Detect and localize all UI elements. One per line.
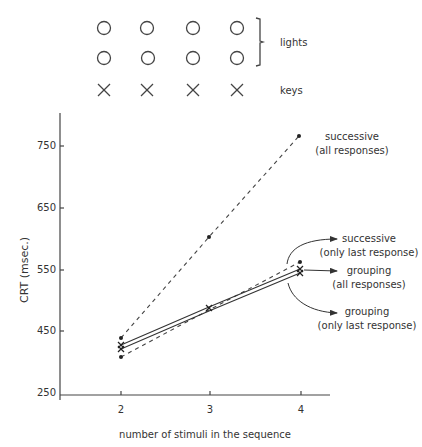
light-circle-icon bbox=[231, 22, 244, 35]
y-axis-title: CRT (msec.) bbox=[18, 237, 31, 303]
label-successive-last: successive (only last response) bbox=[316, 232, 422, 260]
key-cross-icon bbox=[231, 84, 243, 96]
key-cross-icon bbox=[187, 84, 199, 96]
lights-label: lights bbox=[280, 37, 307, 48]
y-tick-label: 550 bbox=[37, 264, 56, 275]
light-circle-icon bbox=[187, 22, 200, 35]
y-tick-label: 250 bbox=[37, 387, 56, 398]
figure: lights keys 750 650 550 450 250 2 3 4 nu… bbox=[0, 0, 422, 447]
light-circle-icon bbox=[98, 52, 111, 65]
light-circle-icon bbox=[231, 52, 244, 65]
light-circle-icon bbox=[142, 52, 155, 65]
key-cross-icon bbox=[98, 84, 110, 96]
label-line: (only last response) bbox=[312, 319, 422, 333]
x-tick-label: 3 bbox=[207, 404, 213, 415]
y-tick-label: 450 bbox=[37, 325, 56, 336]
y-tick-label: 650 bbox=[37, 202, 56, 213]
light-circle-icon bbox=[141, 22, 154, 35]
bracket-icon bbox=[256, 18, 263, 66]
label-line: (only last response) bbox=[316, 246, 422, 260]
label-line: successive bbox=[316, 232, 422, 246]
x-tick-label: 4 bbox=[298, 404, 304, 415]
x-axis-title: number of stimuli in the sequence bbox=[119, 429, 291, 440]
series-grouping-last bbox=[121, 273, 300, 349]
label-grouping-all: grouping (all responses) bbox=[320, 264, 418, 292]
label-line: successive bbox=[305, 130, 399, 144]
label-line: (all responses) bbox=[320, 278, 418, 292]
label-grouping-last: grouping (only last response) bbox=[312, 305, 422, 333]
label-successive-all: successive (all responses) bbox=[305, 130, 399, 158]
x-tick-label: 2 bbox=[118, 404, 124, 415]
lights-keys-diagram bbox=[98, 18, 264, 96]
keys-label: keys bbox=[280, 85, 303, 96]
label-line: grouping bbox=[320, 264, 418, 278]
label-line: grouping bbox=[312, 305, 422, 319]
label-line: (all responses) bbox=[305, 144, 399, 158]
key-cross-icon bbox=[141, 84, 153, 96]
y-tick-label: 750 bbox=[37, 140, 56, 151]
light-circle-icon bbox=[98, 22, 111, 35]
light-circle-icon bbox=[187, 52, 200, 65]
